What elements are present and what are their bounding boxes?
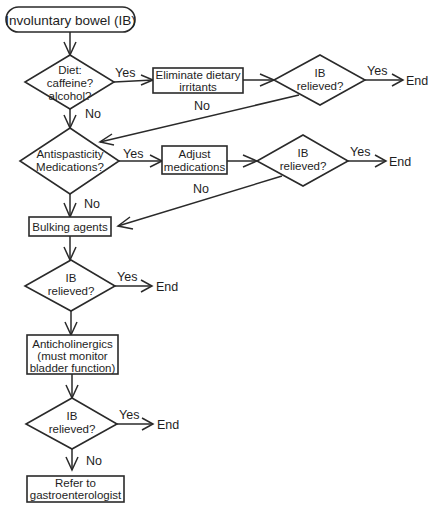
edge-label-yes: Yes <box>117 270 137 284</box>
decision-relieved-2: IB relieved? <box>257 135 348 186</box>
process-adjust-medications: Adjust medications <box>162 146 227 174</box>
end-label: End <box>157 418 179 432</box>
connector-adjust-to-relieved2 <box>227 155 257 167</box>
connector-relieved4-no: No <box>66 449 102 470</box>
connector-relieved2-yes-end: Yes End <box>348 145 411 169</box>
connector-diet-no: No <box>64 107 101 128</box>
decision-relieved-1-line-1: IB <box>315 67 326 79</box>
connector-diet-yes: Yes <box>114 66 153 85</box>
decision-relieved-4-line-1: IB <box>67 410 78 422</box>
end-label: End <box>389 155 411 169</box>
edge-label-no: No <box>85 107 101 121</box>
connector-anticholinergics-to-relieved4 <box>66 374 78 398</box>
process-refer-line-2: gastroenterologist <box>30 489 122 501</box>
connector-relieved1-yes-end: Yes End <box>365 64 428 88</box>
end-label: End <box>406 74 428 88</box>
decision-relieved-4: IB relieved? <box>26 398 117 449</box>
connector-bulking-to-relieved3 <box>64 236 76 260</box>
connector-relieved4-yes-end: Yes End <box>117 408 179 432</box>
decision-relieved-1-line-2: relieved? <box>297 80 344 92</box>
decision-diet-line-2: caffeine? <box>47 77 93 89</box>
process-eliminate-irritants: Eliminate dietary irritants <box>153 68 243 93</box>
start-label: Involuntary bowel (IB) <box>5 13 136 28</box>
edge-label-no: No <box>86 454 102 468</box>
process-adjust-line-1: Adjust <box>179 148 212 160</box>
decision-antispasticity-line-1: Antispasticity <box>36 148 103 160</box>
decision-diet: Diet: caffeine? alcohol? <box>25 55 114 109</box>
end-label: End <box>156 280 178 294</box>
connector-start-to-diet <box>64 32 76 55</box>
connector-relieved2-no: No <box>118 176 282 229</box>
process-anticholinergics-line-1: Anticholinergics <box>32 338 113 350</box>
start-terminator: Involuntary bowel (IB) <box>5 7 136 32</box>
connector-eliminate-to-relieved1 <box>243 74 274 86</box>
decision-relieved-2-line-2: relieved? <box>280 160 327 172</box>
edge-label-yes: Yes <box>123 147 143 161</box>
edge-label-no: No <box>193 182 209 196</box>
edge-label-yes: Yes <box>115 66 135 80</box>
process-anticholinergics-line-2: (must monitor <box>37 350 107 362</box>
edge-label-no: No <box>194 99 210 113</box>
process-adjust-line-2: medications <box>164 161 226 173</box>
decision-antispasticity: Antispasticity Medications? <box>20 128 119 194</box>
connector-relieved1-no: No <box>100 95 299 145</box>
decision-relieved-3: IB relieved? <box>25 260 115 311</box>
decision-relieved-3-line-1: IB <box>66 272 77 284</box>
decision-relieved-4-line-2: relieved? <box>49 423 96 435</box>
decision-diet-line-3: alcohol? <box>49 90 92 102</box>
process-refer-gastroenterologist: Refer to gastroenterologist <box>27 476 124 502</box>
process-refer-line-1: Refer to <box>55 477 96 489</box>
process-bulking-label: Bulking agents <box>32 221 108 233</box>
connector-relieved3-to-anticholinergics <box>65 311 77 335</box>
connector-relieved3-yes-end: Yes End <box>115 270 178 294</box>
decision-relieved-2-line-1: IB <box>298 147 309 159</box>
flowchart-canvas: Involuntary bowel (IB) Diet: caffeine? a… <box>0 0 435 516</box>
edge-label-no: No <box>84 197 100 211</box>
edge-label-yes: Yes <box>350 145 370 159</box>
process-eliminate-line-2: irritants <box>179 81 217 93</box>
connector-antispasticity-no: No <box>64 194 100 217</box>
process-anticholinergics: Anticholinergics (must monitor bladder f… <box>27 335 118 374</box>
process-bulking-agents: Bulking agents <box>29 217 111 236</box>
decision-antispasticity-line-2: Medications? <box>36 161 104 173</box>
connector-antispasticity-yes: Yes <box>119 147 162 167</box>
edge-label-yes: Yes <box>119 408 139 422</box>
edge-label-yes: Yes <box>367 64 387 78</box>
decision-relieved-3-line-2: relieved? <box>48 285 95 297</box>
process-eliminate-line-1: Eliminate dietary <box>155 69 240 81</box>
process-anticholinergics-line-3: bladder function) <box>30 362 116 374</box>
decision-diet-line-1: Diet: <box>58 64 82 76</box>
